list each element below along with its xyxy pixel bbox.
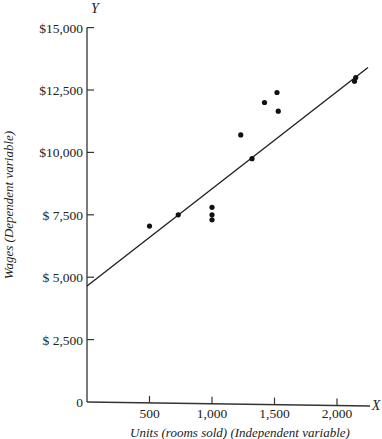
regression-line [87,68,368,286]
axes [87,28,370,406]
y-axis-title: Wages (Dependent variable) [1,131,16,279]
y-tick-label: 0 [76,395,83,410]
y-tick-label: $12,500 [39,83,83,98]
data-point [353,75,358,80]
x-tick-label: 500 [139,406,160,421]
x-tick-label: 1,500 [259,406,290,421]
y-tick-label: $15,000 [39,21,83,36]
x-axis-letter: X [371,398,381,413]
data-point [238,132,243,137]
data-point [249,156,254,161]
regression-line-segment [87,68,368,286]
data-point [274,90,279,95]
data-point [209,217,214,222]
y-axis-letter: Y [91,1,101,16]
data-point [209,212,214,217]
scatter-chart: 0$ 2,500$ 5,000$ 7,500$10,000$12,500$15,… [0,0,382,439]
data-point [262,100,267,105]
y-tick-label: $10,000 [39,145,83,160]
data-points [147,75,358,229]
y-tick-label: $ 7,500 [43,208,84,223]
y-tick-label: $ 5,000 [43,270,84,285]
x-tick-label: 1,000 [197,406,228,421]
axis-ticks: 0$ 2,500$ 5,000$ 7,500$10,000$12,500$15,… [39,21,352,421]
data-point [176,212,181,217]
y-tick-label: $ 2,500 [43,333,84,348]
x-axis-title: Units (rooms sold) (Independent variable… [130,425,350,439]
x-tick-label: 2,000 [322,406,353,421]
data-point [147,223,152,228]
data-point [276,109,281,114]
data-point [209,205,214,210]
